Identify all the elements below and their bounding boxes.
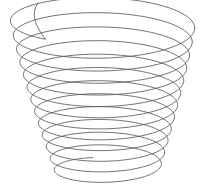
conical-helix-drawing: Conical helix coil wireframe A line draw…: [0, 0, 207, 188]
figure-canvas: Conical helix coil wireframe A line draw…: [0, 0, 207, 188]
